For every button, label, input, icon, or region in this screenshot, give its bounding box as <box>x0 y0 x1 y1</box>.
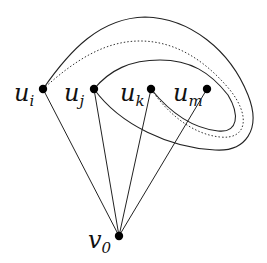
label-subscript: j <box>76 92 84 110</box>
node-u_m <box>203 85 211 93</box>
label-subscript: m <box>188 92 202 110</box>
node-v_0 <box>115 232 123 240</box>
label-u_m: um <box>173 79 203 110</box>
label-u_k: uk <box>120 79 145 110</box>
nodes-group <box>39 85 211 240</box>
label-u_i: ui <box>14 79 34 110</box>
edge-u_k-v_0 <box>119 89 151 236</box>
graph-diagram: uiujukumv0 <box>0 0 267 263</box>
label-v_0: v0 <box>88 226 112 257</box>
label-subscript: i <box>29 92 34 110</box>
label-subscript: k <box>135 92 144 110</box>
edge-u_i-v_0 <box>43 89 119 236</box>
node-u_i <box>39 85 47 93</box>
inner-curve <box>94 60 235 131</box>
graph-svg: uiujukumv0 <box>0 0 267 263</box>
edge-u_m-v_0 <box>119 89 207 236</box>
label-subscript: 0 <box>102 239 112 257</box>
node-u_j <box>90 85 98 93</box>
node-u_k <box>147 85 155 93</box>
edges-group <box>43 89 207 236</box>
label-u_j: uj <box>64 79 84 110</box>
